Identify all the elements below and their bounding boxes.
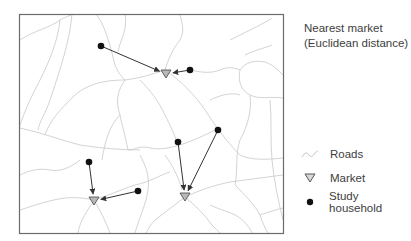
road <box>20 198 94 210</box>
road-network <box>20 14 283 233</box>
nearest-market-arrow <box>89 162 93 194</box>
road <box>240 155 283 159</box>
road <box>235 185 268 233</box>
road <box>20 160 80 175</box>
household-marker <box>215 127 222 134</box>
legend-label-market: Market <box>330 172 365 184</box>
triangle-down-icon <box>300 171 320 185</box>
household-marker <box>175 139 182 146</box>
legend-label-household: Study household <box>329 190 411 214</box>
legend-item-household: Study household <box>300 195 411 209</box>
market-marker <box>89 197 99 205</box>
household-marker <box>187 67 194 74</box>
map-frame <box>20 15 284 234</box>
road <box>140 80 178 145</box>
nearest-market-arrows <box>89 46 218 199</box>
legend-label-roads: Roads <box>330 148 363 160</box>
road <box>146 197 185 233</box>
road <box>210 94 240 100</box>
road <box>118 80 128 150</box>
legend-title-line2: (Euclidean distance) <box>304 36 408 51</box>
road <box>20 20 60 125</box>
road <box>165 14 183 70</box>
nearest-market-arrow <box>188 130 218 191</box>
road <box>118 14 126 52</box>
road <box>260 208 283 215</box>
road <box>190 68 240 73</box>
road <box>185 197 220 233</box>
road <box>94 200 110 233</box>
road <box>20 14 72 40</box>
road <box>235 95 251 185</box>
household-marker <box>98 43 105 50</box>
nearest-market-arrow <box>101 46 160 71</box>
household-marker <box>135 188 142 195</box>
filled-circle-icon <box>300 195 319 209</box>
household-marker <box>86 159 93 166</box>
households <box>86 43 222 195</box>
road <box>270 100 283 220</box>
legend-item-market: Market <box>300 171 365 185</box>
legend-item-roads: Roads <box>300 147 363 161</box>
nearest-market-arrow <box>101 191 138 199</box>
legend-title-line1: Nearest market <box>304 21 408 36</box>
road <box>239 70 283 98</box>
road <box>240 61 283 75</box>
road <box>45 70 165 135</box>
road <box>185 175 283 197</box>
road-line-icon <box>300 147 320 161</box>
market-marker <box>161 70 171 78</box>
road <box>230 18 272 40</box>
road <box>94 172 170 200</box>
road <box>38 14 72 130</box>
road <box>245 45 272 55</box>
road <box>102 115 120 160</box>
legend-title: Nearest market (Euclidean distance) <box>304 21 408 51</box>
road <box>20 128 140 150</box>
nearest-market-arrow <box>178 142 184 190</box>
road <box>78 200 94 233</box>
road <box>128 130 215 150</box>
markets <box>89 70 190 205</box>
